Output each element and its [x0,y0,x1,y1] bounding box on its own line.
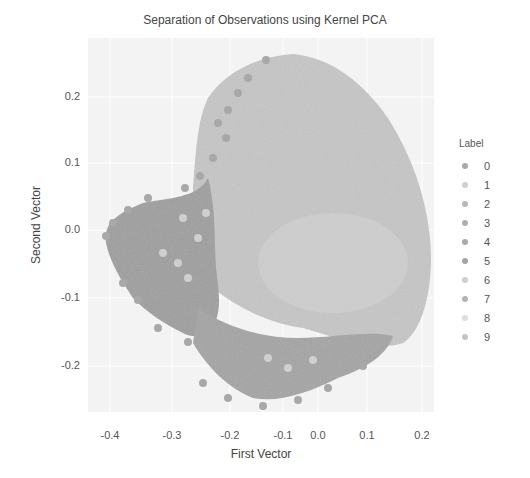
y-tick-label: -0.2 [40,359,80,371]
x-tick-label: 0.2 [402,429,442,441]
legend-item: 6 [456,270,526,289]
x-tick-label: -0.1 [263,429,303,441]
x-tick-label: -0.4 [90,429,130,441]
legend-marker-icon [462,201,468,207]
x-tick-label: -0.3 [152,429,192,441]
legend-label: 7 [484,293,490,305]
legend-marker-icon [462,258,468,264]
legend-marker-icon [462,182,468,188]
legend-marker-icon [462,277,468,283]
legend-label: 5 [484,255,490,267]
legend-item: 4 [456,232,526,251]
y-tick-label: -0.1 [40,291,80,303]
legend-label: 1 [484,179,490,191]
chart-title: Separation of Observations using Kernel … [0,13,530,27]
legend-item: 3 [456,213,526,232]
legend-marker-icon [462,163,468,169]
legend-label: 4 [484,236,490,248]
y-tick-label: 0.1 [40,156,80,168]
legend-item: 9 [456,327,526,346]
legend-label: 2 [484,198,490,210]
x-tick-label: 0.1 [347,429,387,441]
legend: Label 0123456789 [456,138,526,346]
legend-item: 2 [456,194,526,213]
legend-item: 7 [456,289,526,308]
x-tick-label: -0.2 [210,429,250,441]
scatter-canvas [88,38,434,412]
legend-label: 8 [484,312,490,324]
legend-items: 0123456789 [456,156,526,346]
x-tick-label: 0.0 [298,429,338,441]
y-tick-label: 0.2 [40,90,80,102]
x-axis-label: First Vector [88,447,434,461]
legend-item: 0 [456,156,526,175]
legend-marker-icon [462,296,468,302]
legend-label: 9 [484,331,490,343]
legend-marker-icon [462,220,468,226]
legend-label: 6 [484,274,490,286]
y-tick-label: 0.0 [40,223,80,235]
legend-marker-icon [462,334,468,340]
legend-label: 0 [484,160,490,172]
legend-item: 1 [456,175,526,194]
legend-item: 8 [456,308,526,327]
legend-item: 5 [456,251,526,270]
legend-label: 3 [484,217,490,229]
legend-marker-icon [462,239,468,245]
cluster-inner-light [258,213,408,313]
plot-area [88,38,434,412]
legend-marker-icon [462,315,468,321]
legend-title: Label [459,138,526,156]
